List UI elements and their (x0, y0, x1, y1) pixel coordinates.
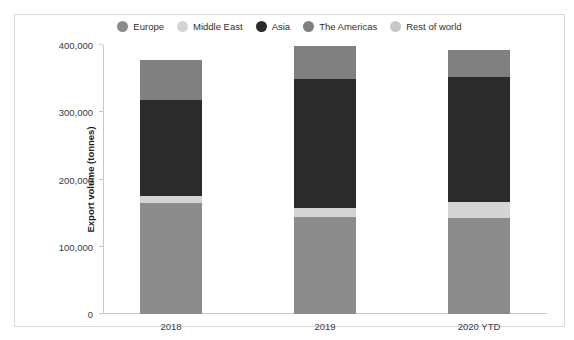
y-tick-mark (99, 313, 103, 314)
legend-swatch-asia (256, 21, 267, 32)
legend-swatch-rest-of-world (390, 21, 401, 32)
chart-legend: Europe Middle East Asia The Americas Res… (15, 21, 564, 32)
bar-segment-middle-east[interactable] (140, 196, 202, 203)
legend-item-rest-of-world[interactable]: Rest of world (390, 21, 461, 32)
bar-segment-europe[interactable] (448, 218, 510, 314)
bar-segment-asia[interactable] (448, 77, 510, 203)
legend-label-rest-of-world: Rest of world (406, 21, 461, 32)
legend-item-asia[interactable]: Asia (256, 21, 290, 32)
bar-segment-asia[interactable] (140, 100, 202, 195)
legend-label-the-americas: The Americas (319, 21, 377, 32)
y-tick-label: 100,000 (59, 241, 100, 252)
legend-label-middle-east: Middle East (193, 21, 243, 32)
legend-item-europe[interactable]: Europe (117, 21, 164, 32)
chart-figure: Europe Middle East Asia The Americas Res… (14, 14, 565, 327)
y-tick-mark (99, 246, 103, 247)
y-tick-mark (99, 111, 103, 112)
plot-area: 0100,000200,000300,000400,000 2018201920… (103, 45, 547, 314)
legend-item-middle-east[interactable]: Middle East (177, 21, 243, 32)
legend-swatch-europe (117, 21, 128, 32)
y-tick-label: 400,000 (59, 40, 100, 51)
legend-item-the-americas[interactable]: The Americas (303, 21, 377, 32)
legend-label-asia: Asia (272, 21, 290, 32)
bar-2018[interactable] (140, 60, 202, 314)
bar-segment-europe[interactable] (140, 203, 202, 314)
legend-label-europe: Europe (133, 21, 164, 32)
y-axis-line (103, 45, 104, 314)
x-tick-label: 2018 (111, 321, 231, 332)
bar-2020-ytd[interactable] (448, 50, 510, 314)
legend-swatch-the-americas (303, 21, 314, 32)
bar-segment-europe[interactable] (294, 217, 356, 315)
y-tick-label: 200,000 (59, 174, 100, 185)
y-tick-label: 0 (88, 309, 100, 320)
x-tick-label: 2019 (265, 321, 385, 332)
bar-2019[interactable] (294, 46, 356, 314)
bar-segment-asia[interactable] (294, 79, 356, 208)
y-tick-mark (99, 44, 103, 45)
bar-segment-middle-east[interactable] (294, 208, 356, 217)
y-tick-label: 300,000 (59, 107, 100, 118)
y-tick-mark (99, 179, 103, 180)
x-tick-label: 2020 YTD (419, 321, 539, 332)
bar-segment-the-americas[interactable] (448, 50, 510, 76)
bar-segment-the-americas[interactable] (140, 60, 202, 100)
bar-segment-middle-east[interactable] (448, 202, 510, 217)
bar-segment-the-americas[interactable] (294, 46, 356, 78)
legend-swatch-middle-east (177, 21, 188, 32)
